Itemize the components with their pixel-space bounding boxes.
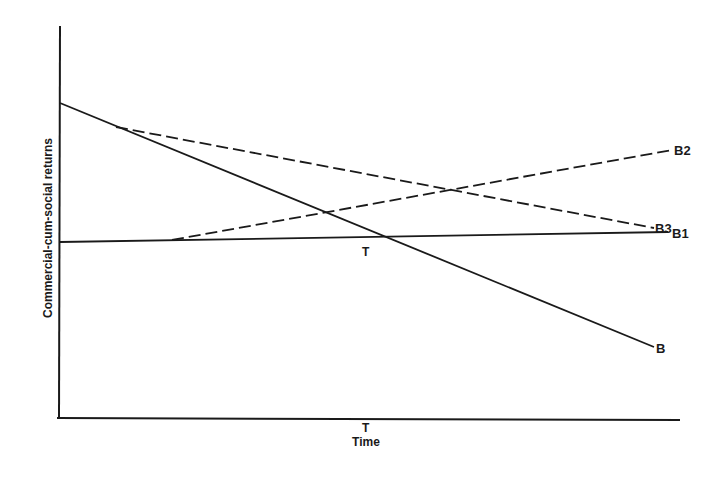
label-b2: B2 <box>674 143 691 158</box>
y-axis-label: Commercial-cum-social returns <box>41 138 55 318</box>
intersection-marker-t: T <box>362 245 370 259</box>
y-axis <box>59 26 60 418</box>
x-axis <box>57 418 680 420</box>
label-b: B <box>656 341 665 356</box>
label-b1: B1 <box>672 226 689 241</box>
line-b1 <box>60 232 668 242</box>
line-b <box>60 103 654 347</box>
line-b3 <box>116 127 654 228</box>
returns-over-time-diagram: B2 B3 B1 B T T Time Commercial-cum-socia… <box>0 0 728 481</box>
x-axis-label: Time <box>352 435 380 449</box>
line-b2 <box>172 150 672 240</box>
label-b3: B3 <box>655 221 672 236</box>
x-axis-marker-t: T <box>362 421 370 435</box>
